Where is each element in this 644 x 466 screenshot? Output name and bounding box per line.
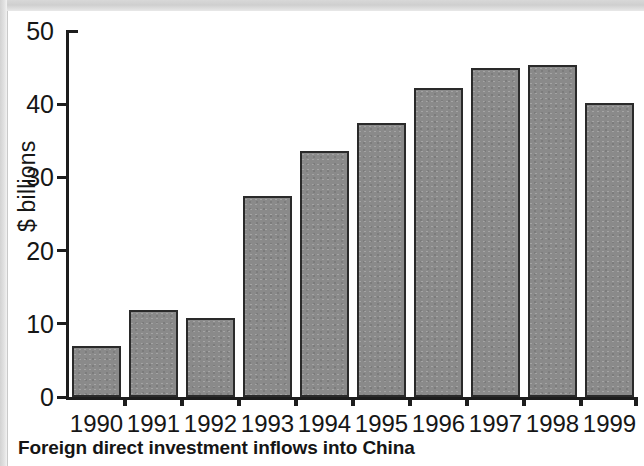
bar-1993: [243, 196, 292, 397]
bar-1996: [414, 88, 463, 397]
x-axis-label-1991: 1991: [127, 412, 180, 436]
x-axis-label-1990: 1990: [70, 412, 123, 436]
chart-page: $ billions 01020304050 19901991199219931…: [0, 0, 644, 466]
x-axis-tick: [522, 397, 526, 406]
y-axis-label: 0: [40, 385, 54, 410]
y-axis-tick: [57, 103, 68, 106]
x-axis-tick: [579, 397, 583, 406]
bar-1991: [129, 310, 178, 397]
x-axis-tick: [465, 397, 469, 406]
y-axis-tick: [66, 30, 78, 33]
plot-area: 01020304050 1990199119921993199419951996…: [66, 31, 636, 400]
bar-1994: [300, 151, 349, 397]
y-axis-label: 20: [26, 238, 54, 263]
bar-1998: [528, 65, 577, 397]
x-axis-tick: [351, 397, 355, 406]
y-axis-tick: [57, 249, 68, 252]
scan-artifact-left: [0, 0, 7, 466]
x-axis-tick: [294, 397, 298, 406]
y-axis-label: 50: [26, 19, 54, 44]
y-axis-label: 10: [26, 311, 54, 336]
scan-artifact-left-line: [7, 11, 8, 466]
scan-artifact-top: [0, 0, 644, 11]
y-axis-label: 30: [26, 165, 54, 190]
bar-1990: [72, 346, 121, 397]
chart-caption: Foreign direct investment inflows into C…: [18, 437, 415, 459]
x-axis-tick: [123, 397, 127, 406]
x-axis-label-1997: 1997: [469, 412, 522, 436]
y-axis-label: 40: [26, 92, 54, 117]
x-axis-label-1999: 1999: [583, 412, 636, 436]
x-axis-tick: [237, 397, 241, 406]
x-axis-label-1995: 1995: [355, 412, 408, 436]
y-axis-line: [66, 31, 69, 400]
y-axis-tick: [57, 322, 68, 325]
bar-1995: [357, 123, 406, 398]
x-axis-tick-end: [634, 397, 638, 406]
bar-1992: [186, 318, 235, 397]
x-axis-tick: [180, 397, 184, 406]
bar-1999: [585, 103, 634, 397]
x-axis-tick: [408, 397, 412, 406]
x-axis-label-1993: 1993: [241, 412, 294, 436]
x-axis-label-1996: 1996: [412, 412, 465, 436]
x-axis-label-1998: 1998: [526, 412, 579, 436]
y-axis-tick: [57, 396, 68, 399]
x-axis-label-1994: 1994: [298, 412, 351, 436]
x-axis-label-1992: 1992: [184, 412, 237, 436]
y-axis-tick: [57, 176, 68, 179]
bar-1997: [471, 68, 520, 397]
